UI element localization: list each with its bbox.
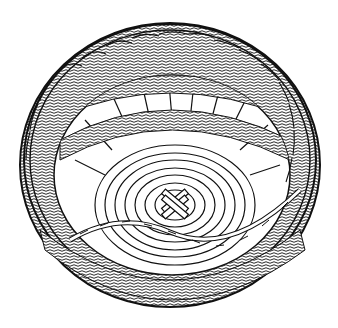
basket-base [95, 145, 255, 265]
basket-illustration [0, 0, 338, 328]
basket-drawing [0, 0, 338, 328]
